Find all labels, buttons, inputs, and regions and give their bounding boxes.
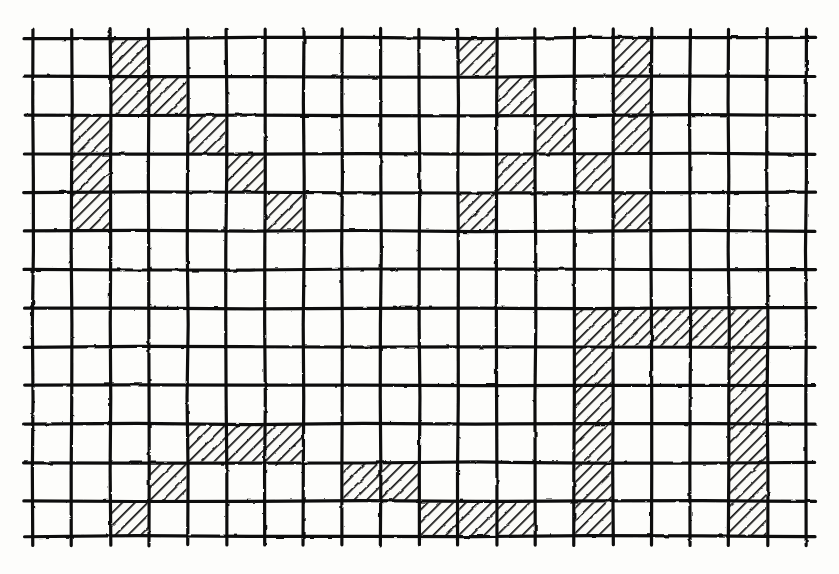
shaded-cell (459, 502, 495, 535)
grid-line-vertical (458, 29, 459, 544)
shaded-cell (111, 39, 147, 75)
shaded-cell (73, 194, 109, 230)
shaded-cell (266, 425, 302, 461)
grid-line-vertical (32, 29, 33, 545)
shaded-cell (459, 39, 495, 75)
grid-line-vertical (728, 29, 729, 545)
shaded-cell (614, 39, 650, 75)
shaded-cell (575, 387, 611, 423)
shaded-cell (498, 78, 534, 114)
shaded-cell (537, 116, 573, 152)
grid-line-vertical (342, 29, 343, 545)
shaded-cell (498, 155, 534, 191)
shaded-cell (343, 464, 379, 500)
shaded-cell (150, 464, 186, 500)
grid-line-vertical (535, 29, 536, 545)
grid-line-vertical (651, 28, 652, 545)
grid-line-vertical (110, 29, 111, 546)
shaded-cell (575, 309, 611, 345)
shaded-cell (575, 502, 611, 535)
grid-line-vertical (187, 29, 188, 544)
shaded-cell (73, 155, 109, 191)
grid-line-vertical (71, 30, 72, 546)
shaded-cell (111, 502, 147, 535)
shaded-cell (227, 425, 263, 461)
shaded-cell (421, 502, 457, 535)
shaded-cell (575, 425, 611, 461)
shaded-cell (111, 78, 147, 114)
shaded-cell (653, 309, 689, 345)
shaded-cell (730, 387, 766, 423)
shaded-cell (189, 425, 225, 461)
grid-line-vertical (226, 29, 227, 544)
shaded-cell (730, 502, 766, 535)
grid-line-vertical (380, 28, 381, 545)
shaded-cell (730, 309, 766, 345)
grid-line-vertical (613, 29, 614, 545)
shaded-cell (575, 155, 611, 191)
shaded-cell (227, 155, 263, 191)
shaded-cell (614, 309, 650, 345)
grid-line-vertical (265, 29, 266, 545)
shaded-cell (266, 194, 302, 230)
shaded-cell (575, 348, 611, 384)
grid-line-vertical (496, 29, 497, 545)
shaded-cell (730, 464, 766, 500)
grid-line-vertical (419, 29, 420, 544)
shaded-cell (614, 116, 650, 152)
grid-line-vertical (805, 29, 806, 545)
shaded-cell (691, 309, 727, 345)
grid-line-vertical (303, 29, 304, 545)
grid-line-vertical (148, 29, 149, 546)
shaded-cell (459, 194, 495, 230)
grid-line-vertical (767, 29, 768, 546)
shaded-cell (498, 502, 534, 535)
shaded-cell (730, 425, 766, 461)
figure-canvas: Hand-drawn grid with hatched (shaded) ce… (0, 0, 839, 574)
shaded-cell (730, 348, 766, 384)
shaded-cell (575, 464, 611, 500)
shaded-cell (382, 464, 418, 500)
grid-diagram (0, 0, 839, 574)
grid-line-vertical (690, 30, 691, 546)
shaded-cell (73, 116, 109, 152)
shaded-cell (150, 78, 186, 114)
shaded-cell (614, 194, 650, 230)
shaded-cell (189, 116, 225, 152)
grid-line-vertical (574, 28, 575, 545)
shaded-cell (614, 78, 650, 114)
